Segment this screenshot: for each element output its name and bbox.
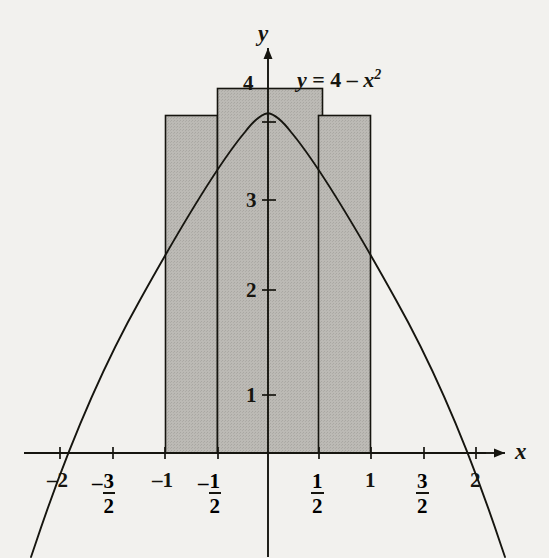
- neg-three-halves-denominator: 2: [103, 494, 116, 518]
- curve-eq-exponent: 2: [374, 67, 381, 82]
- curve-equation-label: y = 4 – x2: [297, 68, 381, 91]
- y-tick-label-2: 2: [246, 280, 257, 301]
- y-axis-label: y: [258, 22, 268, 45]
- x-tick-label-neg-one-half: – 1 2: [198, 470, 221, 518]
- one-half-denominator: 2: [311, 494, 324, 518]
- riemann-rect-center: [218, 89, 323, 454]
- x-tick-label-2: 2: [470, 470, 481, 491]
- x-tick-label-neg-three-halves: – 3 2: [92, 470, 115, 518]
- y-tick-label-4: 4: [243, 73, 254, 94]
- curve-eq-y: y: [297, 67, 307, 92]
- curve-eq-four: 4: [330, 67, 341, 92]
- x-tick-label-1: 1: [365, 470, 376, 491]
- x-tick-label-one-half: 1 2: [311, 470, 324, 518]
- curve-eq-minus: –: [347, 67, 358, 92]
- curve-eq-equals: =: [312, 67, 325, 92]
- riemann-rect-left: [166, 116, 218, 454]
- x-axis-label: x: [515, 440, 527, 463]
- riemann-rect-right: [319, 116, 371, 454]
- one-half-numerator: 1: [311, 470, 324, 494]
- y-tick-label-1: 1: [246, 385, 257, 406]
- neg-three-halves-fraction: 3 2: [103, 470, 116, 518]
- curve-eq-x: x: [363, 67, 374, 92]
- neg-one-half-numerator: 1: [209, 470, 222, 494]
- three-halves-numerator: 3: [416, 470, 429, 494]
- one-half-fraction: 1 2: [311, 470, 324, 518]
- neg-three-halves-numerator: 3: [103, 470, 116, 494]
- three-halves-fraction: 3 2: [416, 470, 429, 518]
- x-tick-label-three-halves: 3 2: [416, 470, 429, 518]
- x-tick-label-neg1: –1: [152, 470, 173, 491]
- neg-one-half-fraction: 1 2: [209, 470, 222, 518]
- parabola-riemann-sum-plot: [0, 0, 549, 558]
- neg-one-half-denominator: 2: [209, 494, 222, 518]
- figure-root: 1 2 3 4 y x y = 4 – x2 –2 – 3 2 –1 – 1 2…: [0, 0, 549, 558]
- three-halves-denominator: 2: [416, 494, 429, 518]
- y-tick-label-3: 3: [246, 190, 257, 211]
- x-tick-label-neg2: –2: [47, 470, 68, 491]
- neg-one-half-sign: –: [198, 470, 209, 496]
- neg-three-halves-sign: –: [92, 470, 103, 496]
